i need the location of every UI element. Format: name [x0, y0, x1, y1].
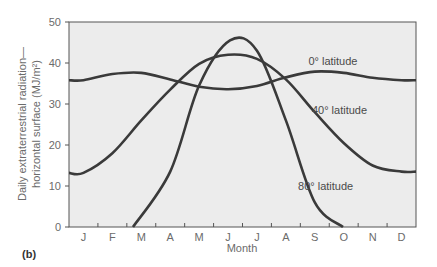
series-label: 0° latitude: [308, 55, 357, 67]
x-tick-label: M: [195, 231, 204, 243]
x-tick-label: A: [282, 231, 290, 243]
y-tick-label: 40: [49, 57, 61, 69]
x-tick-label: D: [398, 231, 406, 243]
plot-area: [69, 22, 416, 227]
x-tick-label: F: [109, 231, 116, 243]
y-tick-label: 50: [49, 16, 61, 28]
x-axis-title: Month: [227, 242, 258, 254]
x-tick-label: A: [167, 231, 175, 243]
y-tick-label: 20: [49, 139, 61, 151]
x-tick-label: J: [81, 231, 87, 243]
series-label: 80° latitude: [298, 180, 353, 192]
y-tick-label: 30: [49, 98, 61, 110]
y-axis-title-line1: Daily extraterrestrial radiation—: [16, 47, 28, 201]
radiation-chart: 01020304050 JFMAMJJASOND 0° latitude40° …: [0, 0, 437, 267]
panel-label: (b): [22, 248, 36, 260]
x-tick-label: O: [339, 231, 348, 243]
y-axis-title-line2: horizontal surface (MJ/m²): [30, 60, 42, 188]
y-tick-label: 10: [49, 180, 61, 192]
x-tick-label: N: [369, 231, 377, 243]
x-tick-label: S: [311, 231, 318, 243]
y-tick-label: 0: [55, 221, 61, 233]
series-label: 40° latitude: [312, 104, 367, 116]
y-axis: 01020304050: [49, 16, 69, 233]
x-tick-label: M: [137, 231, 146, 243]
